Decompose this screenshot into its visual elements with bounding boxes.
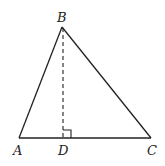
right-angle-marker bbox=[63, 130, 71, 138]
side-ab bbox=[19, 27, 62, 138]
triangle-diagram: B A D C bbox=[0, 0, 165, 166]
label-b: B bbox=[56, 10, 67, 25]
label-c: C bbox=[147, 143, 157, 158]
label-a: A bbox=[12, 143, 22, 158]
label-d: D bbox=[57, 143, 69, 158]
side-bc bbox=[62, 27, 151, 138]
